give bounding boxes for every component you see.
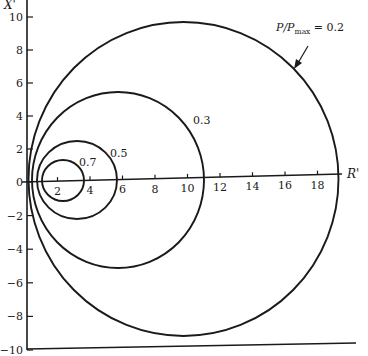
label-p-0.7: 0.7 [79,156,97,169]
x-tick-label: 2 [54,185,61,198]
y-tick-label: −8 [7,310,23,323]
y-tick-label: −10 [0,344,23,356]
x-axis [22,174,342,182]
x-tick-label: 12 [213,181,227,194]
x-tick-label: 10 [181,182,195,195]
label-p-0.2: P/Pmax = 0.2 [275,21,344,36]
circle-p-0.2 [29,22,339,336]
axes: 1086420−2−4−6−8−10 24681012141618 X' R' [0,0,359,356]
y-tick-label: −6 [7,277,23,290]
y-tick-label: 0 [16,176,23,189]
smith-style-circle-chart: 1086420−2−4−6−8−10 24681012141618 X' R' … [0,0,368,356]
power-ratio-circles [29,22,339,336]
y-tick-label: 6 [16,77,23,90]
y-axis-label: X' [3,0,16,12]
label-p-0.5: 0.5 [110,147,128,160]
x-tick-label: 18 [311,179,325,192]
x-ticks: 24681012141618 [54,171,325,199]
arrow-shaft [298,46,308,63]
x-tick-label: 16 [278,179,292,192]
y-tick-label: 2 [16,143,23,156]
y-tick-label: 10 [9,11,23,24]
y-tick-label: 8 [16,44,23,57]
x-axis-label: R' [346,167,359,181]
curve-labels: P/Pmax = 0.2 0.3 0.5 0.7 [79,21,344,169]
arrow-head-icon [294,59,302,69]
label-p-0.3: 0.3 [193,114,211,127]
y-tick-label: −4 [7,243,23,256]
y-tick-label: 4 [16,110,23,123]
y-tick-label: −2 [7,210,23,223]
bottom-axis [27,343,356,349]
x-tick-label: 4 [87,184,94,197]
x-tick-label: 6 [119,183,126,196]
x-tick-label: 14 [246,180,260,193]
x-tick-label: 8 [152,183,159,196]
